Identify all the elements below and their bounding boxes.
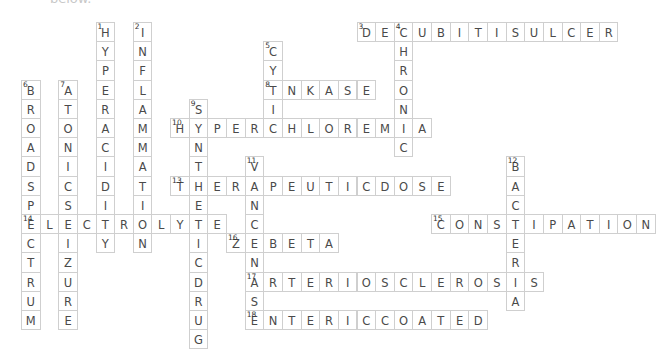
crossword-cell[interactable]: C: [506, 195, 526, 215]
crossword-cell[interactable]: S: [412, 176, 432, 196]
crossword-cell[interactable]: 5C: [263, 41, 283, 61]
crossword-cell[interactable]: E: [282, 233, 302, 253]
crossword-cell[interactable]: T: [133, 176, 153, 196]
crossword-cell[interactable]: O: [450, 214, 470, 234]
crossword-cell[interactable]: S: [524, 272, 544, 292]
crossword-cell[interactable]: I: [58, 233, 78, 253]
crossword-cell[interactable]: B: [263, 233, 283, 253]
crossword-cell[interactable]: Y: [96, 41, 116, 61]
crossword-cell[interactable]: N: [468, 214, 488, 234]
crossword-cell[interactable]: T: [468, 22, 488, 42]
crossword-cell[interactable]: S: [487, 272, 507, 292]
crossword-cell[interactable]: S: [21, 176, 41, 196]
crossword-cell[interactable]: T: [319, 176, 339, 196]
crossword-cell[interactable]: O: [58, 118, 78, 138]
crossword-cell[interactable]: S: [375, 272, 395, 292]
crossword-cell[interactable]: R: [319, 310, 339, 330]
crossword-cell[interactable]: B: [431, 22, 451, 42]
crossword-cell[interactable]: E: [207, 214, 227, 234]
crossword-cell[interactable]: E: [506, 233, 526, 253]
crossword-cell[interactable]: T: [580, 214, 600, 234]
crossword-cell[interactable]: 14E: [21, 214, 41, 234]
crossword-cell[interactable]: R: [506, 252, 526, 272]
crossword-cell[interactable]: N: [133, 41, 153, 61]
crossword-cell[interactable]: O: [394, 310, 414, 330]
crossword-cell[interactable]: 16Z: [226, 233, 246, 253]
crossword-cell[interactable]: I: [133, 195, 153, 215]
crossword-cell[interactable]: A: [96, 118, 116, 138]
crossword-cell[interactable]: C: [357, 176, 377, 196]
crossword-cell[interactable]: 8T: [263, 80, 283, 100]
crossword-cell[interactable]: N: [394, 99, 414, 119]
crossword-cell[interactable]: A: [412, 310, 432, 330]
crossword-cell[interactable]: E: [58, 214, 78, 234]
crossword-cell[interactable]: N: [245, 252, 265, 272]
crossword-cell[interactable]: O: [394, 80, 414, 100]
crossword-cell[interactable]: H: [189, 176, 209, 196]
crossword-cell[interactable]: Y: [170, 214, 190, 234]
crossword-cell[interactable]: 12B: [506, 156, 526, 176]
crossword-cell[interactable]: O: [468, 272, 488, 292]
crossword-cell[interactable]: A: [133, 99, 153, 119]
crossword-cell[interactable]: H: [394, 41, 414, 61]
crossword-cell[interactable]: T: [189, 156, 209, 176]
crossword-cell[interactable]: D: [96, 176, 116, 196]
crossword-cell[interactable]: R: [114, 214, 134, 234]
crossword-cell[interactable]: R: [338, 118, 358, 138]
crossword-cell[interactable]: H: [282, 118, 302, 138]
crossword-cell[interactable]: E: [375, 22, 395, 42]
crossword-cell[interactable]: S: [245, 291, 265, 311]
crossword-cell[interactable]: A: [506, 176, 526, 196]
crossword-cell[interactable]: E: [58, 310, 78, 330]
crossword-cell[interactable]: T: [506, 214, 526, 234]
crossword-cell[interactable]: E: [189, 195, 209, 215]
crossword-cell[interactable]: C: [394, 137, 414, 157]
crossword-cell[interactable]: O: [319, 118, 339, 138]
crossword-cell[interactable]: O: [133, 214, 153, 234]
crossword-cell[interactable]: E: [245, 233, 265, 253]
crossword-cell[interactable]: N: [245, 195, 265, 215]
crossword-cell[interactable]: M: [21, 310, 41, 330]
crossword-cell[interactable]: A: [319, 80, 339, 100]
crossword-cell[interactable]: O: [357, 272, 377, 292]
crossword-cell[interactable]: C: [96, 137, 116, 157]
crossword-cell[interactable]: 17A: [245, 272, 265, 292]
crossword-cell[interactable]: T: [282, 310, 302, 330]
crossword-cell[interactable]: I: [58, 156, 78, 176]
crossword-cell[interactable]: I: [524, 214, 544, 234]
crossword-cell[interactable]: N: [636, 214, 656, 234]
crossword-cell[interactable]: R: [450, 272, 470, 292]
crossword-cell[interactable]: Y: [189, 118, 209, 138]
crossword-cell[interactable]: 9S: [189, 99, 209, 119]
crossword-cell[interactable]: R: [21, 272, 41, 292]
crossword-cell[interactable]: 2I: [133, 22, 153, 42]
crossword-cell[interactable]: N: [189, 137, 209, 157]
crossword-cell[interactable]: E: [96, 80, 116, 100]
crossword-cell[interactable]: A: [21, 137, 41, 157]
crossword-cell[interactable]: D: [375, 176, 395, 196]
crossword-cell[interactable]: R: [189, 291, 209, 311]
crossword-cell[interactable]: I: [450, 22, 470, 42]
crossword-cell[interactable]: L: [40, 214, 60, 234]
crossword-cell[interactable]: S: [338, 80, 358, 100]
crossword-cell[interactable]: S: [487, 214, 507, 234]
crossword-cell[interactable]: P: [21, 195, 41, 215]
crossword-cell[interactable]: D: [189, 272, 209, 292]
crossword-cell[interactable]: 7A: [58, 80, 78, 100]
crossword-cell[interactable]: Y: [96, 233, 116, 253]
crossword-cell[interactable]: T: [282, 272, 302, 292]
crossword-cell[interactable]: I: [506, 272, 526, 292]
crossword-cell[interactable]: R: [263, 272, 283, 292]
crossword-cell[interactable]: A: [319, 233, 339, 253]
crossword-cell[interactable]: U: [524, 22, 544, 42]
crossword-cell[interactable]: T: [189, 214, 209, 234]
crossword-cell[interactable]: M: [375, 118, 395, 138]
crossword-cell[interactable]: D: [21, 156, 41, 176]
crossword-cell[interactable]: R: [319, 272, 339, 292]
crossword-cell[interactable]: I: [599, 214, 619, 234]
crossword-cell[interactable]: R: [21, 99, 41, 119]
crossword-cell[interactable]: C: [562, 22, 582, 42]
crossword-cell[interactable]: E: [357, 80, 377, 100]
crossword-cell[interactable]: N: [133, 233, 153, 253]
crossword-cell[interactable]: E: [580, 22, 600, 42]
